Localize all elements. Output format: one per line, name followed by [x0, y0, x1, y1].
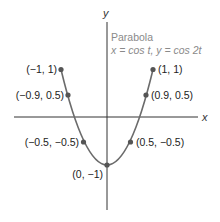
point-0-neg1 — [104, 162, 109, 167]
point-1-1 — [150, 67, 155, 72]
point-0.9-0.5 — [143, 92, 148, 97]
point-neg1-1 — [58, 67, 63, 72]
y-axis-label: y — [102, 7, 110, 19]
x-axis-label: x — [201, 111, 208, 123]
label-0.9-0.5: (0.9, 0.5) — [151, 89, 193, 101]
point-0.5-neg0.5 — [128, 139, 133, 144]
diagram-equation: x = cos t, y = cos 2t — [110, 44, 203, 56]
label-neg0.9-0.5: (−0.9, 0.5) — [16, 89, 64, 101]
parabola-diagram: x y Parabola x = cos t, y = cos 2t (−1, … — [0, 0, 220, 222]
label-0.5-neg0.5: (0.5, −0.5) — [136, 136, 184, 148]
point-neg0.9-0.5 — [65, 92, 70, 97]
diagram-svg: x y Parabola x = cos t, y = cos 2t (−1, … — [0, 0, 220, 222]
label-0-neg1: (0, −1) — [72, 168, 103, 180]
label-neg1-1: (−1, 1) — [26, 63, 57, 75]
label-neg0.5-neg0.5: (−0.5, −0.5) — [25, 136, 79, 148]
point-neg0.5-neg0.5 — [81, 139, 86, 144]
diagram-title: Parabola — [111, 31, 153, 43]
label-1-1: (1, 1) — [158, 63, 183, 75]
